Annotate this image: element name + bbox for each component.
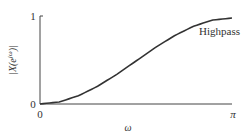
y-tick-label-1: 1 (30, 10, 36, 22)
x-tick-label-0: 0 (37, 108, 43, 120)
y-axis-label: |X(ejω)| (6, 45, 19, 75)
y-tick-label-0: 0 (30, 98, 36, 110)
x-axis-label: ω (124, 122, 131, 133)
chart: 1 0 0 π ω |X(ejω)| Highpass (0, 0, 249, 139)
x-tick-label-pi: π (230, 108, 236, 120)
curve-label: Highpass (199, 25, 240, 37)
svg-text:|X(ejω)|: |X(ejω)| (6, 45, 19, 75)
